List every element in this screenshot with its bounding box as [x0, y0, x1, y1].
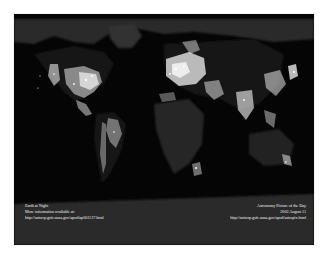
- apod-url: http://antwrp.gsfc.nasa.gov/apod/astropi…: [230, 215, 306, 221]
- earth-at-night-image: Earth at Night More information availabl…: [14, 14, 314, 245]
- caption-right: Astronomy Picture of the Day 2002 August…: [230, 203, 306, 222]
- arctic-landmass: [14, 19, 314, 48]
- caption-left: Earth at Night More information availabl…: [25, 203, 104, 222]
- caption-url: http://antwrp.gsfc.nasa.gov/apod/ap00112…: [25, 215, 104, 221]
- north-america-lights: [48, 64, 102, 116]
